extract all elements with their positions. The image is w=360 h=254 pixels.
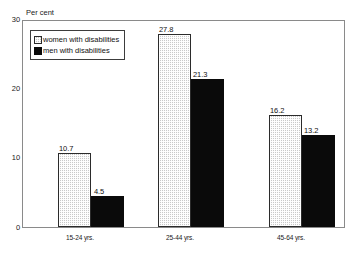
- value-label-men-25-44: 21.3: [193, 71, 207, 79]
- legend: women with disabilities men with disabil…: [30, 30, 125, 60]
- checkered-swatch-icon: [34, 36, 42, 44]
- y-tick-10: 10: [2, 154, 20, 162]
- value-label-men-15-24: 4.5: [94, 188, 104, 196]
- value-label-women-45-64: 16.2: [270, 107, 284, 115]
- bar-women-45-64: [269, 115, 302, 227]
- legend-item-men: men with disabilities: [34, 45, 119, 56]
- legend-label-men: men with disabilities: [43, 46, 110, 55]
- value-label-men-45-64: 13.2: [304, 127, 318, 135]
- y-tick-30: 30: [2, 16, 20, 24]
- solid-black-swatch-icon: [34, 47, 42, 55]
- legend-label-women: women with disabilities: [43, 35, 119, 44]
- y-axis: 30 20 10 0: [0, 0, 20, 254]
- x-tick-25-44: 25-44 yrs.: [137, 234, 223, 242]
- bar-women-15-24: [58, 153, 91, 227]
- x-tick-45-64: 45-64 yrs.: [248, 234, 334, 242]
- bar-men-45-64: [302, 135, 335, 227]
- y-tick-20: 20: [2, 85, 20, 93]
- bar-men-15-24: [91, 196, 124, 227]
- y-axis-title: Per cent: [26, 8, 54, 17]
- y-tick-0: 0: [2, 224, 20, 232]
- value-label-women-25-44: 27.8: [159, 26, 173, 34]
- bar-chart: 30 20 10 0 Per cent 10.7 4.5 27.8 21.3 1…: [0, 0, 360, 254]
- x-tick-15-24: 15-24 yrs.: [37, 234, 123, 242]
- legend-item-women: women with disabilities: [34, 34, 119, 45]
- bar-men-25-44: [191, 79, 224, 227]
- bar-women-25-44: [158, 34, 191, 227]
- value-label-women-15-24: 10.7: [59, 145, 73, 153]
